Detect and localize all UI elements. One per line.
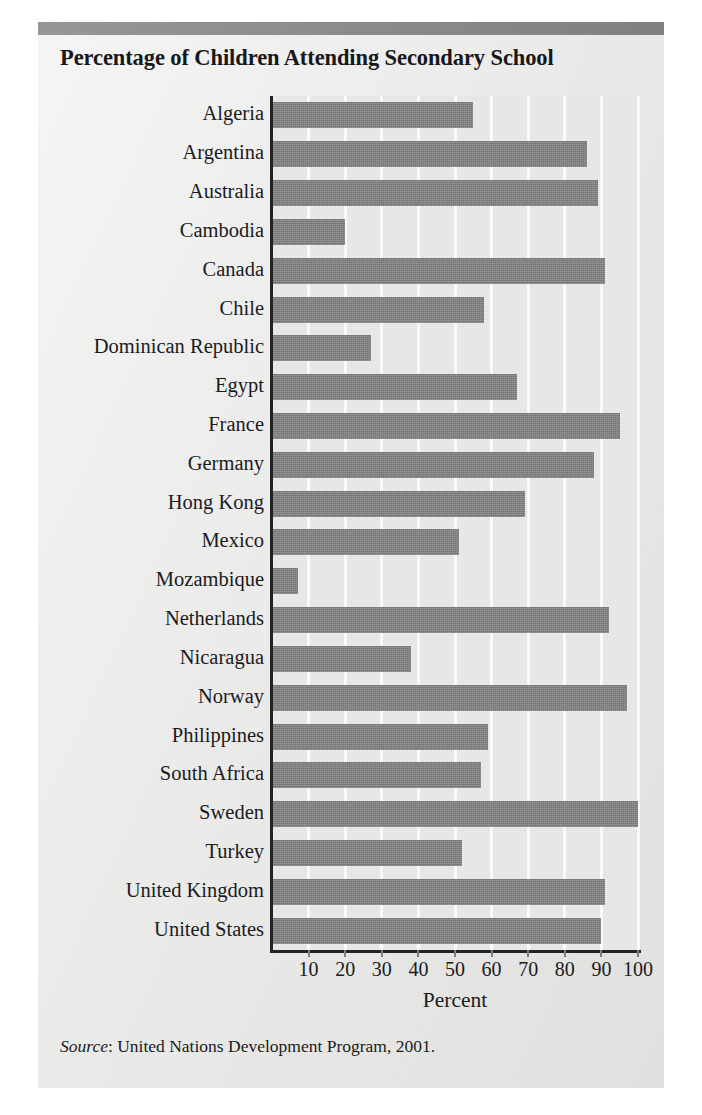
bar: [272, 491, 525, 517]
x-axis-title: Percent: [272, 988, 638, 1013]
category-label: Mexico: [24, 529, 264, 552]
category-label: Dominican Republic: [24, 335, 264, 358]
x-tick-label: 10: [299, 958, 319, 981]
x-tickmark: [308, 950, 310, 957]
category-label: Netherlands: [24, 607, 264, 630]
bar: [272, 219, 345, 245]
x-tickmark: [527, 950, 529, 957]
x-tickmark: [417, 950, 419, 957]
category-label: Argentina: [24, 141, 264, 164]
bar: [272, 724, 488, 750]
bar: [272, 646, 411, 672]
category-axis-labels: AlgeriaArgentinaAustraliaCambodiaCanadaC…: [20, 96, 264, 950]
category-label: Cambodia: [24, 219, 264, 242]
category-label: Nicaragua: [24, 646, 264, 669]
x-tick-label: 60: [482, 958, 502, 981]
bar: [272, 918, 601, 944]
category-label: Hong Kong: [24, 491, 264, 514]
category-label: Philippines: [24, 724, 264, 747]
x-tickmark: [381, 950, 383, 957]
category-label: Algeria: [24, 102, 264, 125]
source-text: United Nations Development Program, 2001…: [117, 1036, 435, 1056]
category-label: Germany: [24, 452, 264, 475]
x-tickmark: [454, 950, 456, 957]
category-label: Chile: [24, 297, 264, 320]
bar: [272, 374, 517, 400]
x-tickmark: [637, 950, 639, 957]
category-label: Norway: [24, 685, 264, 708]
bar: [272, 529, 459, 555]
chart-page: Percentage of Children Attending Seconda…: [0, 0, 702, 1115]
category-label: Australia: [24, 180, 264, 203]
bar: [272, 762, 481, 788]
top-rule: [38, 22, 664, 35]
category-label: United Kingdom: [24, 879, 264, 902]
bar: [272, 102, 473, 128]
x-tick-label: 70: [518, 958, 538, 981]
bar: [272, 297, 484, 323]
x-tick-label: 20: [335, 958, 355, 981]
source-note: Source: United Nations Development Progr…: [60, 1036, 435, 1057]
x-tickmark: [344, 950, 346, 957]
bar: [272, 335, 371, 361]
bar: [272, 607, 609, 633]
bar: [272, 258, 605, 284]
category-label: France: [24, 413, 264, 436]
x-tick-label: 50: [445, 958, 465, 981]
bar: [272, 180, 598, 206]
x-tick-label: 80: [555, 958, 575, 981]
category-label: Mozambique: [24, 568, 264, 591]
category-label: Egypt: [24, 374, 264, 397]
x-tickmark: [600, 950, 602, 957]
bar: [272, 801, 638, 827]
source-label: Source: [60, 1036, 108, 1056]
bar: [272, 452, 594, 478]
bar: [272, 840, 462, 866]
category-label: South Africa: [24, 762, 264, 785]
x-tick-label: 100: [623, 958, 653, 981]
bar: [272, 141, 587, 167]
x-tickmark: [564, 950, 566, 957]
chart-title: Percentage of Children Attending Seconda…: [60, 45, 640, 71]
x-axis-tick-labels: 102030405060708090100: [272, 958, 652, 986]
bar: [272, 685, 627, 711]
source-separator: :: [108, 1036, 117, 1056]
x-tickmark: [491, 950, 493, 957]
bar: [272, 413, 620, 439]
x-tick-label: 30: [372, 958, 392, 981]
x-tick-label: 90: [591, 958, 611, 981]
category-label: Canada: [24, 258, 264, 281]
y-axis-line: [270, 96, 273, 950]
bar: [272, 568, 298, 594]
category-label: Sweden: [24, 801, 264, 824]
x-tick-label: 40: [408, 958, 428, 981]
category-label: United States: [24, 918, 264, 941]
bar: [272, 879, 605, 905]
category-label: Turkey: [24, 840, 264, 863]
plot-area: [272, 96, 638, 950]
